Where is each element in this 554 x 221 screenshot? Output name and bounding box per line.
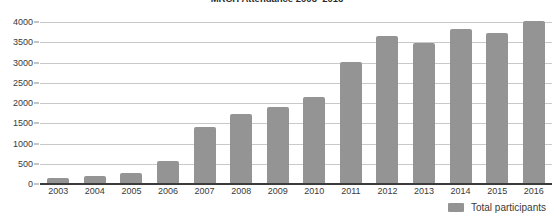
x-axis-tick-label: 2012 (377, 186, 397, 196)
y-axis-tick-label: 3500 (13, 37, 33, 47)
x-axis-tick-label: 2007 (195, 186, 215, 196)
y-axis-tick-label: 2000 (13, 98, 33, 108)
bar (486, 33, 508, 184)
y-axis-tick (34, 82, 39, 83)
y-axis-tick-label: 1000 (13, 139, 33, 149)
bar (267, 107, 289, 184)
y-axis-tick-label: 2500 (13, 78, 33, 88)
y-axis-tick-label: 1500 (13, 118, 33, 128)
bar-chart: MRCH Attendance 2003–2016 05001000150020… (0, 0, 554, 221)
y-axis-tick-label: 0 (28, 179, 33, 189)
y-axis-tick-label: 500 (18, 159, 33, 169)
y-axis-tick-label: 3000 (13, 58, 33, 68)
x-axis-tick-label: 2016 (524, 186, 544, 196)
bar (157, 161, 179, 184)
chart-title: MRCH Attendance 2003–2016 (0, 0, 554, 6)
x-axis-tick-label: 2009 (268, 186, 288, 196)
y-axis: 05001000150020002500300035004000 (0, 12, 33, 184)
bar (523, 21, 545, 185)
x-axis-tick-label: 2006 (158, 186, 178, 196)
x-axis-line (40, 183, 552, 185)
bar (413, 43, 435, 184)
y-axis-tick (34, 62, 39, 63)
x-axis-tick-label: 2004 (85, 186, 105, 196)
legend-label-total-participants: Total participants (471, 202, 546, 213)
x-axis-tick-label: 2005 (121, 186, 141, 196)
bar (450, 29, 472, 184)
x-axis-tick-label: 2008 (231, 186, 251, 196)
x-axis-tick-label: 2014 (451, 186, 471, 196)
chart-legend: Total participants (448, 202, 546, 213)
x-axis-tick-label: 2010 (304, 186, 324, 196)
bar-series-total-participants (40, 12, 552, 184)
y-axis-tick-label: 4000 (13, 17, 33, 27)
plot-area (40, 12, 552, 184)
y-axis-tick (34, 143, 39, 144)
x-axis: 2003200420052006200720082009201020112012… (40, 186, 552, 200)
bar (303, 97, 325, 184)
y-axis-tick (34, 103, 39, 104)
y-axis-tick (34, 22, 39, 23)
bar (376, 36, 398, 184)
bar (340, 62, 362, 184)
legend-swatch-total-participants (448, 203, 464, 212)
x-axis-tick-label: 2013 (414, 186, 434, 196)
bar (194, 127, 216, 184)
bar (230, 114, 252, 184)
y-axis-tick (34, 42, 39, 43)
y-axis-tick (34, 123, 39, 124)
y-axis-tick (34, 163, 39, 164)
y-axis-tick (34, 184, 39, 185)
x-axis-tick-label: 2015 (487, 186, 507, 196)
x-axis-tick-label: 2003 (48, 186, 68, 196)
x-axis-tick-label: 2011 (341, 186, 360, 196)
